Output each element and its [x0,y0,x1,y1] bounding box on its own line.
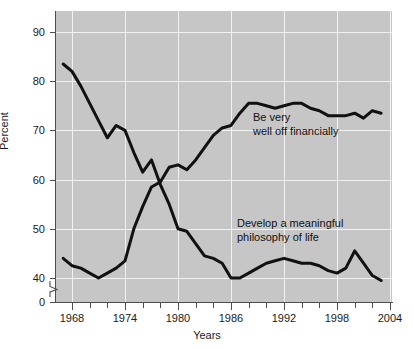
x-axis-tick [337,303,338,310]
gridline-horizontal [56,180,392,181]
x-axis-tick [266,303,267,308]
y-axis-tick [50,180,55,181]
y-axis-tick-label: 70 [15,125,45,136]
x-axis-tick [72,303,73,310]
x-axis-tick-label: 1974 [105,312,145,324]
x-axis-tick [390,303,391,310]
gridline-vertical [390,11,391,302]
x-axis-tick-label: 1968 [52,312,92,324]
x-axis-tick-label: 2004 [370,312,410,324]
series-annotation-philosophy-of-life: Develop a meaningful philosophy of life [237,216,343,244]
y-axis-tick [50,32,55,33]
x-axis-tick [284,303,285,310]
y-axis-title: Percent [0,112,10,150]
y-axis-tick-label: 40 [15,273,45,284]
x-axis-tick [372,303,373,308]
y-axis-tick-label: 50 [15,224,45,235]
x-axis-title: Years [0,329,414,341]
plot-area [56,11,392,302]
series-annotation-well-off-financially: Be very well off financially [253,110,338,138]
y-axis-tick-label: 60 [15,175,45,186]
y-axis-tick-label: 80 [15,76,45,87]
x-axis-tick [196,303,197,308]
x-axis-tick [125,303,126,310]
x-axis-tick [213,303,214,308]
y-axis-tick [50,81,55,82]
gridline-vertical [72,11,73,302]
x-axis-tick [107,303,108,308]
x-axis-tick [319,303,320,308]
x-axis-tick-label: 1992 [264,312,304,324]
y-axis-tick-label: 0 [15,297,45,308]
y-axis-break-icon [48,281,60,297]
gridline-horizontal [56,278,392,279]
x-axis-tick [355,303,356,308]
y-axis-line [55,11,56,302]
x-axis-line [55,302,393,303]
chart-root: 90 80 70 60 50 40 0 1968 1974 1980 1986 … [0,0,414,349]
gridline-vertical [337,11,338,302]
x-axis-tick-label: 1998 [317,312,357,324]
x-axis-tick [178,303,179,310]
gridline-vertical [125,11,126,302]
y-axis-tick-label: 90 [15,27,45,38]
x-axis-tick [302,303,303,308]
x-axis-tick [160,303,161,308]
x-axis-tick-label: 1980 [158,312,198,324]
x-axis-tick [143,303,144,308]
x-axis-tick [231,303,232,310]
gridline-vertical [284,11,285,302]
gridline-horizontal [56,130,392,131]
gridline-vertical [231,11,232,302]
x-axis-tick [90,303,91,308]
x-axis-tick [249,303,250,308]
x-axis-tick-label: 1986 [211,312,251,324]
gridline-horizontal [56,32,392,33]
y-axis-tick [50,302,55,303]
y-axis-tick [50,130,55,131]
gridline-vertical [178,11,179,302]
y-axis-tick [50,278,55,279]
y-axis-tick [50,229,55,230]
gridline-horizontal [56,81,392,82]
